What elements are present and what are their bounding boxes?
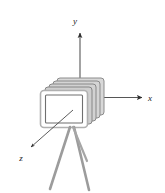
x-axis-label: x: [147, 93, 152, 103]
tripod-leg-left: [50, 127, 70, 189]
figure-canvas: y x z: [0, 0, 165, 193]
z-axis-label: z: [18, 153, 23, 163]
camera-coordinate-frame-figure: y x z: [0, 0, 165, 193]
y-axis-label: y: [72, 16, 77, 26]
camera-screen: [46, 95, 83, 123]
camera-front-plane: [41, 91, 88, 128]
tripod: [50, 127, 89, 190]
